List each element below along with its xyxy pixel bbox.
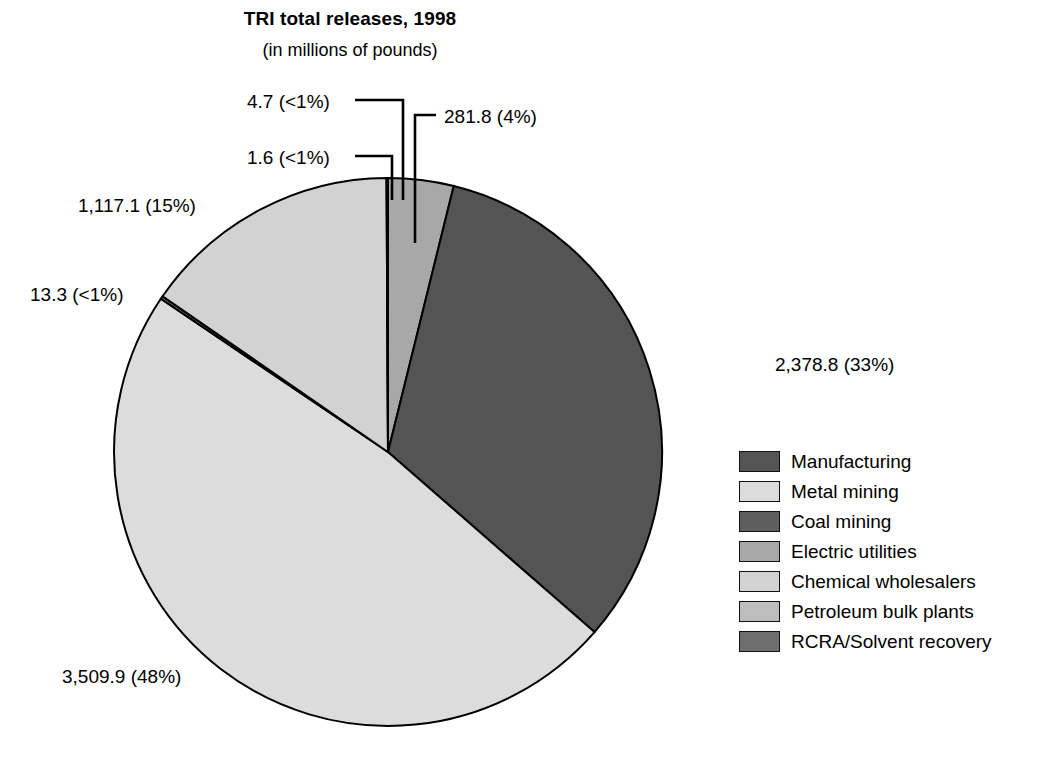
legend-label: Manufacturing xyxy=(791,452,911,471)
value-label-petroleum-bulk-plants: 1.6 (<1%) xyxy=(247,148,330,167)
chart-page: TRI total releases, 1998 (in millions of… xyxy=(0,0,1057,776)
legend-swatch xyxy=(739,541,780,562)
legend-item[interactable]: Coal mining xyxy=(739,506,992,536)
value-label-coal-mining: 13.3 (<1%) xyxy=(30,285,123,304)
legend-item[interactable]: Chemical wholesalers xyxy=(739,566,992,596)
legend-label: RCRA/Solvent recovery xyxy=(791,632,992,651)
legend-item[interactable]: Electric utilities xyxy=(739,536,992,566)
value-label-metal-mining: 3,509.9 (48%) xyxy=(62,667,181,686)
legend-item[interactable]: RCRA/Solvent recovery xyxy=(739,626,992,656)
value-label-rcra-solvent-recovery: 4.7 (<1%) xyxy=(247,92,330,111)
legend-swatch xyxy=(739,601,780,622)
legend-swatch xyxy=(739,571,780,592)
legend-swatch xyxy=(739,511,780,532)
pie-slice-rcra-solvent-recovery[interactable] xyxy=(387,178,388,452)
legend-swatch xyxy=(739,451,780,472)
legend-item[interactable]: Metal mining xyxy=(739,476,992,506)
legend-swatch xyxy=(739,631,780,652)
legend-item[interactable]: Manufacturing xyxy=(739,446,992,476)
value-label-electric-utilities: 281.8 (4%) xyxy=(444,107,537,126)
legend-label: Metal mining xyxy=(791,482,899,501)
legend-swatch xyxy=(739,481,780,502)
legend-label: Electric utilities xyxy=(791,542,917,561)
legend-label: Coal mining xyxy=(791,512,891,531)
legend-label: Petroleum bulk plants xyxy=(791,602,974,621)
legend-label: Chemical wholesalers xyxy=(791,572,976,591)
value-label-manufacturing: 2,378.8 (33%) xyxy=(775,355,894,374)
value-label-chemical-wholesalers: 1,117.1 (15%) xyxy=(78,196,196,215)
chart-legend: ManufacturingMetal miningCoal miningElec… xyxy=(739,446,992,656)
legend-item[interactable]: Petroleum bulk plants xyxy=(739,596,992,626)
pie-slices xyxy=(114,178,662,726)
